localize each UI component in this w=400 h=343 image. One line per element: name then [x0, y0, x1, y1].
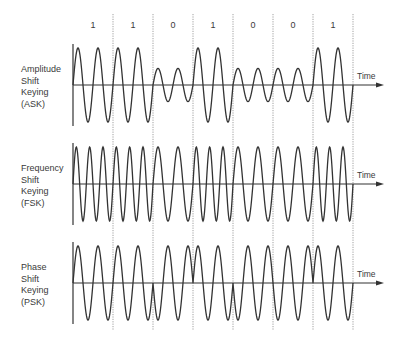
label-line: Shift: [21, 76, 61, 88]
ask-label: Amplitude Shift Keying (ASK): [21, 64, 61, 110]
label-line: Amplitude: [21, 64, 61, 76]
label-line: (FSK): [21, 198, 64, 210]
bit-label: 1: [113, 20, 153, 30]
axes: [73, 44, 384, 324]
arrow-icon: [376, 182, 384, 187]
psk-label: Phase Shift Keying (PSK): [21, 262, 49, 308]
arrow-icon: [376, 281, 384, 286]
bit-label: 1: [313, 20, 353, 30]
label-line: Frequency: [21, 163, 64, 175]
bit-label: 1: [73, 20, 113, 30]
arrow-icon: [376, 83, 384, 88]
fsk-label: Frequency Shift Keying (FSK): [21, 163, 64, 209]
label-line: Phase: [21, 262, 49, 274]
ask-time-label: Time: [357, 71, 376, 81]
bit-label: 0: [233, 20, 273, 30]
label-line: Shift: [21, 274, 49, 286]
label-line: (PSK): [21, 297, 49, 309]
bit-label: 0: [153, 20, 193, 30]
label-line: Keying: [21, 87, 61, 99]
label-line: (ASK): [21, 99, 61, 111]
label-line: Keying: [21, 186, 64, 198]
fsk-time-label: Time: [357, 170, 376, 180]
bit-label: 0: [273, 20, 313, 30]
bit-label: 1: [193, 20, 233, 30]
psk-time-label: Time: [357, 269, 376, 279]
label-line: Shift: [21, 175, 64, 187]
label-line: Keying: [21, 285, 49, 297]
